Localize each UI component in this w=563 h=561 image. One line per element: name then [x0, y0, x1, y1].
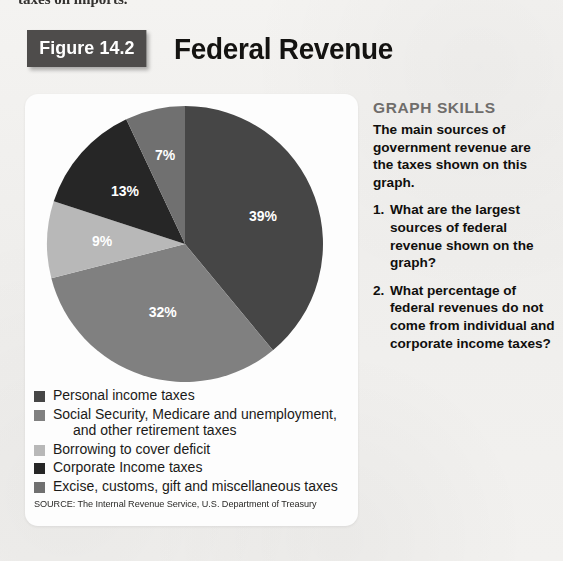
- legend-label-line2: and other retirement taxes: [53, 422, 337, 439]
- legend-label-line1: Excise, customs, gift and miscellaneous …: [53, 478, 338, 494]
- legend-swatch-excise-customs: [34, 482, 45, 493]
- pie-slice-data-label: 32%: [149, 304, 178, 320]
- legend-item: Excise, customs, gift and miscellaneous …: [34, 478, 352, 495]
- legend-label-excise-customs: Excise, customs, gift and miscellaneous …: [53, 478, 338, 495]
- chart-source-note: SOURCE: The Internal Revenue Service, U.…: [34, 498, 317, 509]
- legend-label-personal-income-taxes: Personal income taxes: [53, 387, 195, 404]
- legend-item: Borrowing to cover deficit: [34, 441, 352, 458]
- legend-item: Personal income taxes: [34, 387, 352, 404]
- legend-label-social-security: Social Security, Medicare and unemployme…: [53, 406, 337, 439]
- legend-label-line1: Borrowing to cover deficit: [53, 441, 210, 457]
- pie-slice-data-label: 39%: [249, 208, 278, 224]
- graph-skills-question-2: 2. What percentage of federal revenues d…: [373, 282, 555, 352]
- legend-swatch-personal-income-taxes: [34, 391, 45, 402]
- question-number: 2.: [373, 282, 390, 300]
- legend-swatch-corporate-income-taxes: [34, 463, 45, 474]
- figure-header: Figure 14.2 Federal Revenue: [27, 30, 410, 67]
- chart-legend: Personal income taxes Social Security, M…: [34, 387, 352, 496]
- graph-skills-intro: The main sources of government revenue a…: [373, 121, 555, 191]
- pie-chart: 39%32%9%13%7%: [45, 104, 325, 384]
- legend-swatch-social-security: [34, 410, 45, 421]
- cutoff-running-text: taxes on imports.: [18, 0, 278, 9]
- question-text: What are the largest sources of federal …: [390, 201, 555, 271]
- graph-skills-panel: GRAPH SKILLS The main sources of governm…: [373, 99, 555, 362]
- legend-item: Social Security, Medicare and unemployme…: [34, 406, 352, 439]
- legend-item: Corporate Income taxes: [34, 459, 352, 476]
- question-text: What percentage of federal revenues do n…: [390, 282, 555, 352]
- pie-slice-group: [47, 106, 323, 382]
- pie-chart-svg: 39%32%9%13%7%: [45, 104, 325, 384]
- legend-label-line1: Corporate Income taxes: [53, 459, 202, 475]
- legend-label-line1: Personal income taxes: [53, 387, 195, 403]
- legend-swatch-borrowing: [34, 445, 45, 456]
- legend-label-line1: Social Security, Medicare and unemployme…: [53, 406, 337, 422]
- legend-label-corporate-income-taxes: Corporate Income taxes: [53, 459, 202, 476]
- graph-skills-title: GRAPH SKILLS: [373, 99, 555, 117]
- cutoff-running-text-label: taxes on imports.: [18, 0, 278, 8]
- question-number: 1.: [373, 201, 390, 219]
- figure-title: Federal Revenue: [174, 32, 393, 66]
- pie-slice-data-label: 9%: [92, 233, 113, 249]
- chart-card: 39%32%9%13%7% Personal income taxes Soci…: [25, 94, 358, 526]
- pie-slice-data-label: 13%: [111, 183, 140, 199]
- pie-slice-data-label: 7%: [155, 147, 176, 163]
- graph-skills-question-1: 1. What are the largest sources of feder…: [373, 201, 555, 271]
- legend-label-borrowing: Borrowing to cover deficit: [53, 441, 210, 458]
- figure-number-badge: Figure 14.2: [27, 30, 147, 67]
